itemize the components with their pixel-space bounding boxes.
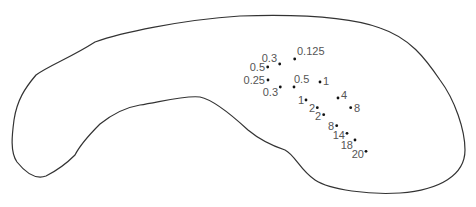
point-marker xyxy=(266,66,269,69)
region-outline xyxy=(12,15,465,193)
data-point: 4 xyxy=(337,89,348,101)
point-label: 0.125 xyxy=(297,45,325,57)
point-label: 8 xyxy=(354,102,360,114)
data-point: 8 xyxy=(349,102,360,114)
data-point: 0.5 xyxy=(293,73,310,88)
point-marker xyxy=(346,132,349,135)
data-point: 20 xyxy=(352,148,368,160)
point-marker xyxy=(319,81,322,84)
point-marker xyxy=(293,58,296,61)
point-marker xyxy=(354,139,357,142)
point-label: 20 xyxy=(352,148,364,160)
data-point: 0.25 xyxy=(244,74,270,86)
point-marker xyxy=(337,97,340,100)
data-point: 1 xyxy=(298,94,308,106)
point-marker xyxy=(322,113,325,116)
data-point: 2 xyxy=(315,110,325,122)
point-marker xyxy=(293,86,296,89)
point-marker xyxy=(279,86,282,89)
data-point: 0.3 xyxy=(263,86,282,98)
point-marker xyxy=(267,79,270,82)
point-marker xyxy=(349,106,352,109)
data-points-layer: 0.1250.30.50.250.30.51148228141820 xyxy=(244,45,368,160)
point-marker xyxy=(335,124,338,127)
point-marker xyxy=(316,106,319,109)
point-label: 0.3 xyxy=(263,86,278,98)
point-label: 2 xyxy=(315,110,321,122)
point-label: 0.5 xyxy=(250,61,265,73)
data-point: 0.125 xyxy=(293,45,324,60)
point-label: 1 xyxy=(298,94,304,106)
diagram-canvas: 0.1250.30.50.250.30.51148228141820 xyxy=(0,0,476,207)
point-label: 0.25 xyxy=(244,74,265,86)
point-label: 0.5 xyxy=(294,73,309,85)
data-point: 1 xyxy=(319,75,330,87)
point-marker xyxy=(278,63,281,66)
point-marker xyxy=(365,150,368,153)
point-marker xyxy=(305,99,308,102)
point-label: 4 xyxy=(341,89,347,101)
point-label: 1 xyxy=(323,75,329,87)
